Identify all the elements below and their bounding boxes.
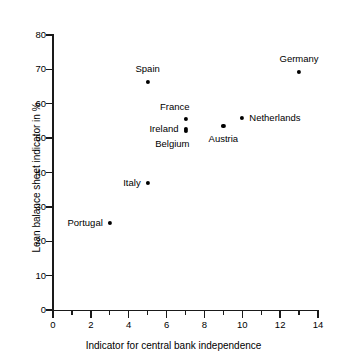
plot-area: 01020304050607080 02468101214 PortugalSp… (0, 0, 347, 363)
x-tick-label: 12 (275, 320, 286, 330)
x-axis-title: Indicator for central bank independence (0, 340, 347, 351)
x-tick-mark-minor (109, 311, 110, 315)
y-tick-mark (46, 137, 53, 138)
x-tick-label: 4 (126, 320, 131, 330)
x-tick-mark (128, 311, 129, 318)
data-point (183, 117, 187, 121)
y-tick-label: 0 (41, 305, 46, 315)
y-tick-mark (46, 69, 53, 70)
x-tick-mark (242, 311, 243, 318)
x-tick-mark-minor (71, 311, 72, 315)
data-point (297, 70, 301, 74)
data-point (146, 181, 150, 185)
data-point-label: France (160, 102, 190, 112)
data-point-label: Belgium (155, 139, 189, 149)
x-tick-mark-minor (298, 311, 299, 315)
data-point (146, 80, 150, 84)
data-point-label: Germany (280, 54, 319, 64)
x-tick-mark (90, 311, 91, 318)
x-tick-label: 0 (50, 320, 55, 330)
x-tick-mark (204, 311, 205, 318)
y-tick-mark (46, 34, 53, 35)
y-tick-mark (46, 103, 53, 104)
data-point-label: Austria (209, 134, 239, 144)
data-point (183, 129, 187, 133)
data-point-label: Netherlands (249, 113, 300, 123)
x-tick-mark (166, 311, 167, 318)
data-point (221, 124, 225, 128)
x-tick-mark-minor (185, 311, 186, 315)
y-tick-mark (46, 206, 53, 207)
data-point (108, 221, 112, 225)
x-tick-mark (317, 311, 318, 318)
data-point-label: Spain (135, 64, 159, 74)
y-axis-title: Lean balance sheet indicator in % (31, 58, 42, 298)
x-tick-label: 14 (313, 320, 324, 330)
x-tick-mark-minor (147, 311, 148, 315)
y-tick-label: 80 (35, 30, 46, 40)
x-tick-label: 6 (164, 320, 169, 330)
x-tick-label: 8 (202, 320, 207, 330)
data-point (240, 116, 244, 120)
x-tick-mark (52, 311, 53, 318)
data-point-label: Portugal (67, 218, 102, 228)
data-point-label: Ireland (149, 124, 178, 134)
data-point-label: Italy (123, 178, 140, 188)
x-tick-mark-minor (261, 311, 262, 315)
y-tick-mark (46, 241, 53, 242)
y-tick-mark (46, 275, 53, 276)
x-tick-mark (279, 311, 280, 318)
scatter-plot-figure: 01020304050607080 02468101214 PortugalSp… (0, 0, 347, 363)
x-tick-label: 2 (88, 320, 93, 330)
x-tick-mark-minor (223, 311, 224, 315)
x-tick-label: 10 (237, 320, 248, 330)
y-tick-mark (46, 172, 53, 173)
